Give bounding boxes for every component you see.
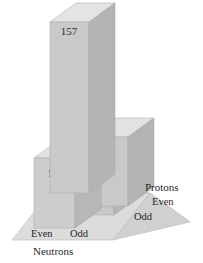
bar-even-even: 157 <box>50 3 115 193</box>
bar-chart-3d: 4 53 50 157 Even Odd Neutrons <box>0 0 203 263</box>
neutrons-tick-odd: Odd <box>70 228 89 239</box>
bar-even-even-side <box>89 3 115 193</box>
chart-canvas: 4 53 50 157 Even Odd Neutrons <box>0 0 203 263</box>
protons-axis-title: Protons <box>145 181 179 193</box>
neutrons-axis-title: Neutrons <box>33 245 73 257</box>
bar-even-even-front <box>50 22 89 193</box>
protons-tick-odd: Odd <box>134 211 153 222</box>
bar-even-even-value: 157 <box>61 25 78 37</box>
neutrons-tick-even: Even <box>31 228 53 239</box>
protons-tick-even: Even <box>152 196 174 207</box>
